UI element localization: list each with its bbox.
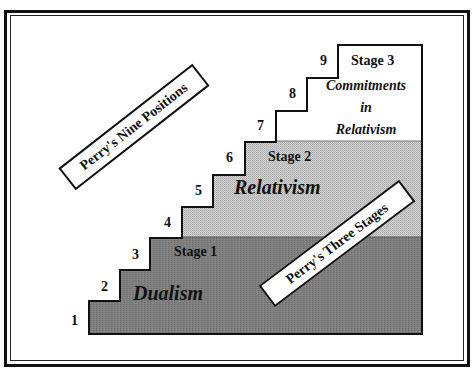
- position-1: 1: [71, 313, 78, 329]
- position-9: 9: [320, 53, 327, 69]
- stage-3-label: Stage 3: [351, 53, 394, 69]
- position-7: 7: [257, 118, 264, 134]
- position-3: 3: [132, 247, 139, 263]
- position-4: 4: [164, 215, 171, 231]
- position-5: 5: [195, 183, 202, 199]
- stage-1-name: Dualism: [133, 282, 203, 305]
- stage-3-name-line-2: in: [310, 97, 422, 119]
- position-6: 6: [226, 150, 233, 166]
- stage-2-label: Stage 2: [268, 149, 311, 165]
- stage-2-name: Relativism: [234, 176, 321, 199]
- stage-3-name: Commitments in Relativism: [310, 75, 422, 141]
- stage-3-name-line-3: Relativism: [310, 119, 422, 141]
- stage-3-name-line-1: Commitments: [310, 75, 422, 97]
- position-2: 2: [101, 279, 108, 295]
- stage-1-label: Stage 1: [174, 244, 217, 260]
- position-8: 8: [289, 86, 296, 102]
